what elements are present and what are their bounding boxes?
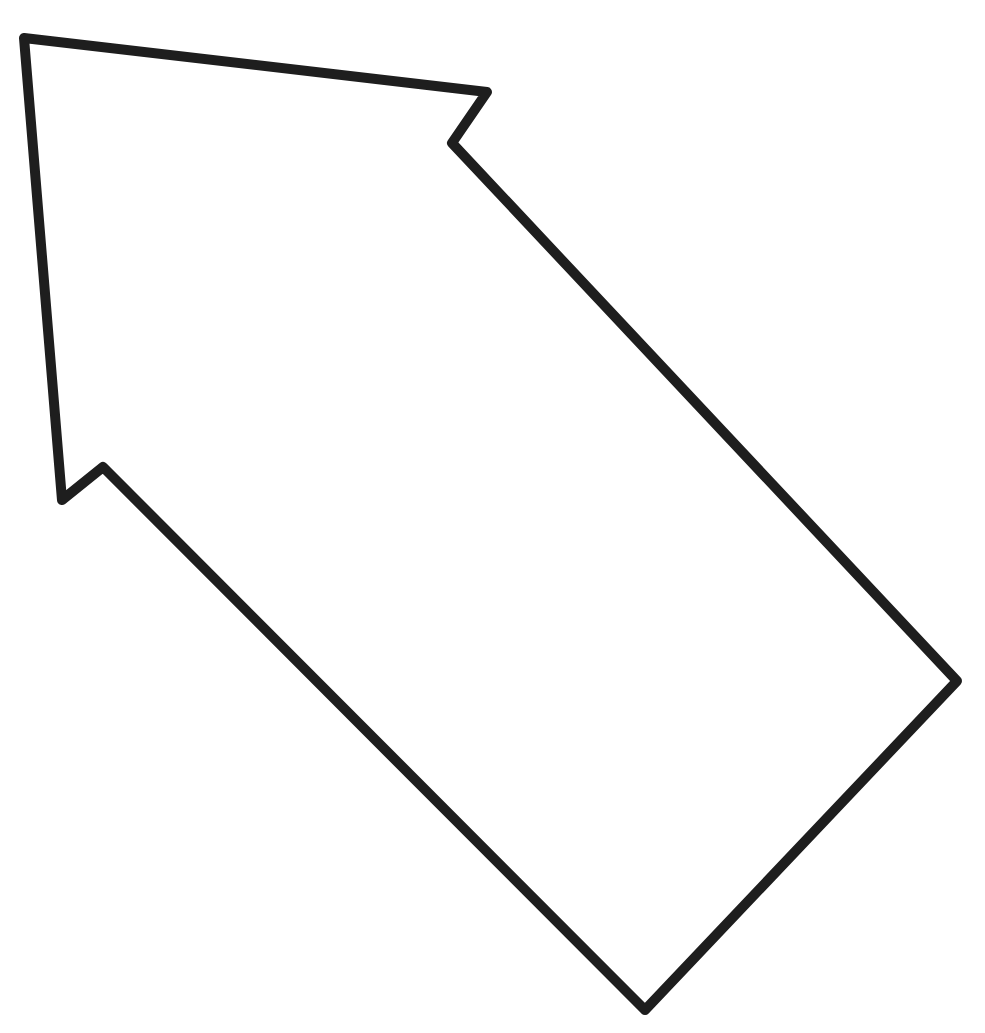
arrow-diagram	[0, 0, 985, 1033]
